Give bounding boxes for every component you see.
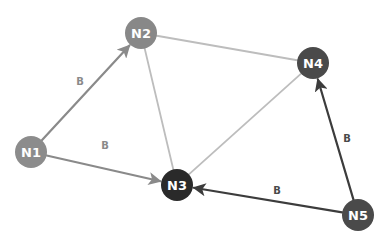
node-label: N1 <box>21 145 41 160</box>
nodes-layer: N1N2N3N4N5 <box>15 17 374 231</box>
node-label: N2 <box>131 26 151 41</box>
node-n3[interactable]: N3 <box>161 169 193 201</box>
edge-n1-n2 <box>42 45 130 140</box>
node-n5[interactable]: N5 <box>342 199 374 231</box>
edge-n5-n3 <box>194 188 342 213</box>
node-n4[interactable]: N4 <box>297 47 329 79</box>
node-n2[interactable]: N2 <box>125 17 157 49</box>
graph-canvas: BBBB N1N2N3N4N5 <box>0 0 387 241</box>
edge-label-n5-n4: B <box>343 133 351 144</box>
edge-label-n5-n3: B <box>273 185 281 196</box>
node-label: N3 <box>167 178 187 193</box>
edge-n2-n3 <box>145 49 174 170</box>
node-label: N5 <box>348 208 368 223</box>
node-label: N4 <box>303 56 323 71</box>
node-n1[interactable]: N1 <box>15 136 47 168</box>
edge-labels-layer: BBBB <box>76 76 351 196</box>
edge-label-n1-n2: B <box>76 76 84 87</box>
edge-label-n1-n3: B <box>101 140 109 151</box>
edge-n1-n3 <box>47 156 161 182</box>
graph-diagram: BBBB N1N2N3N4N5 <box>0 0 387 241</box>
edge-n2-n4 <box>157 36 297 61</box>
edge-n4-n3 <box>189 74 301 175</box>
